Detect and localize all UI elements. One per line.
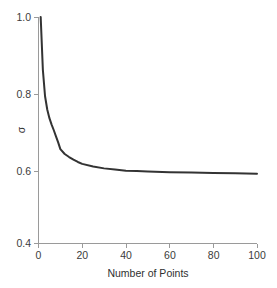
- x-axis-title: Number of Points: [107, 267, 188, 279]
- y-tick-label-1.0: 1.0: [16, 11, 31, 23]
- x-tick-label-60: 60: [164, 249, 176, 261]
- x-tick-label-20: 20: [76, 249, 88, 261]
- x-tick-label-0: 0: [36, 249, 42, 261]
- y-tick-label-0.4: 0.4: [16, 237, 31, 249]
- chart-axes-lines: [39, 17, 258, 244]
- x-tick-label-40: 40: [120, 249, 132, 261]
- y-axis-title: σ: [15, 126, 27, 133]
- chart-figure: 1.0 0.8 0.6 0.4 0 20 40 60 80 100 σ Numb…: [0, 0, 277, 288]
- x-tick-label-100: 100: [248, 249, 266, 261]
- data-series-sigma: [41, 17, 257, 174]
- y-tick-label-0.8: 0.8: [16, 88, 31, 100]
- sigma-vs-number-of-points-chart: 1.0 0.8 0.6 0.4 0 20 40 60 80 100 σ Numb…: [0, 0, 277, 288]
- x-axis-ticks: [39, 244, 258, 249]
- y-axis-ticks: [34, 18, 39, 244]
- y-tick-label-0.6: 0.6: [16, 165, 31, 177]
- x-tick-label-80: 80: [208, 249, 220, 261]
